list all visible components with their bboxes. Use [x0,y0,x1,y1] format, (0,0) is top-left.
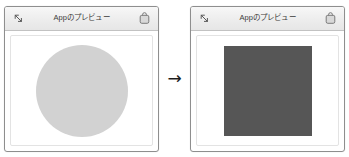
collapse-diagonal-arrow-icon[interactable] [198,12,211,25]
preview-shape-circle [36,45,128,137]
preview-canvas [10,35,153,146]
preview-shape-square [224,46,312,136]
panel-title: Appのプレビュー [5,6,158,30]
panel-titlebar: Appのプレビュー [5,7,158,31]
transition-arrow-icon: → [162,70,188,87]
panel-titlebar: Appのプレビュー [191,7,344,31]
before-after-figure: Appのプレビュー → [0,0,349,157]
app-bag-icon[interactable] [138,12,151,25]
collapse-diagonal-arrow-icon[interactable] [12,12,25,25]
app-preview-panel-before: Appのプレビュー [4,6,159,152]
preview-canvas [196,35,339,146]
app-preview-panel-after: Appのプレビュー [190,6,345,152]
panel-title: Appのプレビュー [191,6,344,30]
app-bag-icon[interactable] [324,12,337,25]
